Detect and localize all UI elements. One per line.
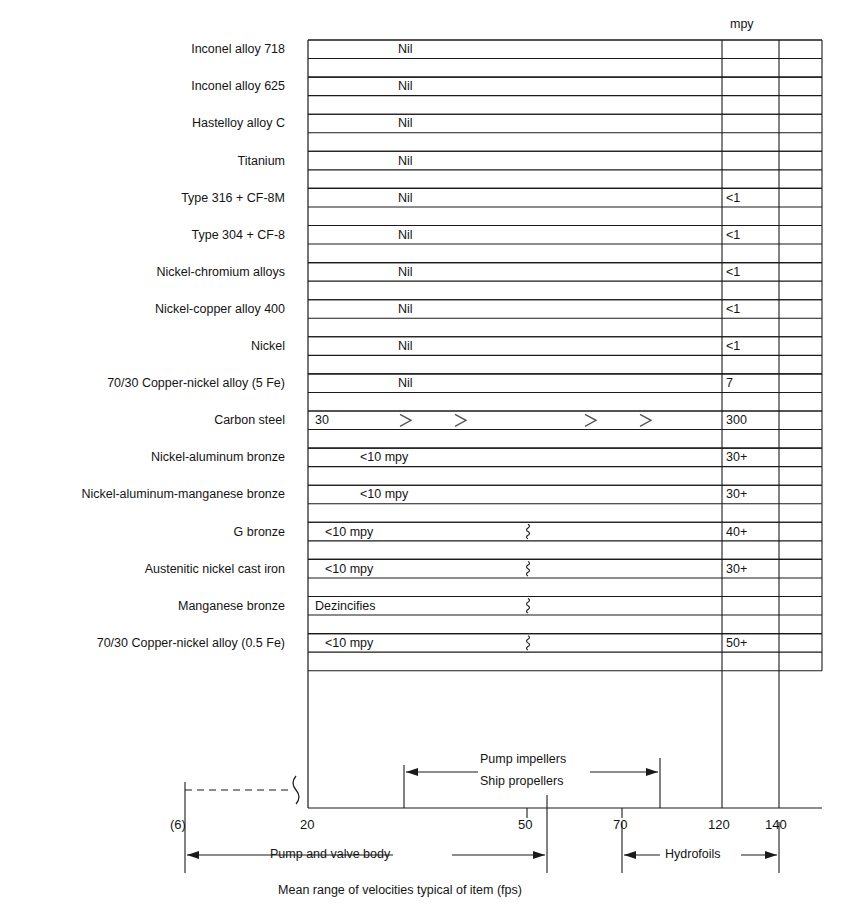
- hydrofoils-right-arrowhead: [765, 851, 777, 859]
- mpy-value-5: <1: [726, 229, 740, 242]
- row-label-12: Nickel-aluminum-manganese bronze: [0, 488, 285, 501]
- bar-value-5: Nil: [398, 229, 413, 242]
- chevron-10-3: [640, 414, 651, 426]
- axis-tick-group: [527, 808, 622, 818]
- chevron-10-0: [400, 414, 411, 426]
- mpy-value-16: 50+: [726, 637, 747, 650]
- break-value-label: (6): [170, 818, 186, 831]
- axis-break-brace: [293, 776, 299, 804]
- annotation-hydrofoils: Hydrofoils: [665, 848, 721, 861]
- tick-label-70: 70: [613, 818, 627, 831]
- bar-value-2: Nil: [398, 117, 413, 130]
- bar-value-3: Nil: [398, 155, 413, 168]
- row-label-5: Type 304 + CF-8: [0, 229, 285, 242]
- mpy-value-12: 30+: [726, 488, 747, 501]
- impeller-left-arrowhead: [406, 768, 418, 776]
- mpy-value-7: <1: [726, 303, 740, 316]
- mpy-value-9: 7: [726, 377, 733, 390]
- chevron-group: [400, 414, 651, 426]
- impeller-right-arrowhead: [646, 768, 658, 776]
- break-mark-15: [527, 599, 530, 614]
- bar-value-1: Nil: [398, 80, 413, 93]
- mpy-value-11: 30+: [726, 451, 747, 464]
- row-label-10: Carbon steel: [0, 414, 285, 427]
- axis-caption: Mean range of velocities typical of item…: [278, 884, 522, 897]
- row-label-13: G bronze: [0, 526, 285, 539]
- break-mark-16: [527, 636, 530, 651]
- annotation-pump-impellers: Pump impellers: [480, 753, 566, 766]
- bar-value-7: Nil: [398, 303, 413, 316]
- bar-group: [308, 40, 822, 671]
- row-label-4: Type 316 + CF-8M: [0, 192, 285, 205]
- bar-value-12: <10 mpy: [360, 488, 408, 501]
- tick-label-140: 140: [765, 818, 787, 831]
- row-label-1: Inconel alloy 625: [0, 80, 285, 93]
- mpy-value-4: <1: [726, 192, 740, 205]
- annotation-pump-and-valve-body: Pump and valve body: [270, 848, 390, 861]
- chevron-10-2: [585, 414, 596, 426]
- row-label-2: Hastelloy alloy C: [0, 117, 285, 130]
- chevron-10-1: [455, 414, 466, 426]
- row-label-0: Inconel alloy 718: [0, 43, 285, 56]
- annotation-ship-propellers: Ship propellers: [480, 775, 563, 788]
- mpy-value-8: <1: [726, 340, 740, 353]
- bar-value-13: <10 mpy: [325, 526, 373, 539]
- row-label-11: Nickel-aluminum bronze: [0, 451, 285, 464]
- bar-value-11: <10 mpy: [360, 451, 408, 464]
- bar-value-8: Nil: [398, 340, 413, 353]
- row-label-6: Nickel-chromium alloys: [0, 266, 285, 279]
- bar-value-14: <10 mpy: [325, 563, 373, 576]
- bar-value-0: Nil: [398, 43, 413, 56]
- break-mark-13: [527, 524, 530, 539]
- mpy-value-13: 40+: [726, 526, 747, 539]
- tick-label-50: 50: [518, 818, 532, 831]
- bar-value-9: Nil: [398, 377, 413, 390]
- bar-value-10: 30: [315, 414, 329, 427]
- break-mark-group: [527, 524, 530, 650]
- row-label-15: Manganese bronze: [0, 600, 285, 613]
- row-label-7: Nickel-copper alloy 400: [0, 303, 285, 316]
- tick-label-20: 20: [300, 818, 314, 831]
- break-mark-14: [527, 561, 530, 576]
- mpy-value-10: 300: [726, 414, 747, 427]
- mpy-value-6: <1: [726, 266, 740, 279]
- hydrofoils-left-arrowhead: [624, 851, 636, 859]
- row-label-9: 70/30 Copper-nickel alloy (5 Fe): [0, 377, 285, 390]
- mpy-column-header: mpy: [730, 18, 754, 31]
- pumpvalve-right-arrowhead: [533, 851, 545, 859]
- row-label-8: Nickel: [0, 340, 285, 353]
- row-label-14: Austenitic nickel cast iron: [0, 563, 285, 576]
- mpy-value-14: 30+: [726, 563, 747, 576]
- bar-value-15: Dezincifies: [315, 600, 375, 613]
- bar-value-6: Nil: [398, 266, 413, 279]
- pumpvalve-left-arrowhead: [187, 851, 199, 859]
- row-label-16: 70/30 Copper-nickel alloy (0.5 Fe): [0, 637, 285, 650]
- row-label-3: Titanium: [0, 155, 285, 168]
- bar-value-16: <10 mpy: [325, 637, 373, 650]
- tick-label-120: 120: [708, 818, 730, 831]
- bar-value-4: Nil: [398, 192, 413, 205]
